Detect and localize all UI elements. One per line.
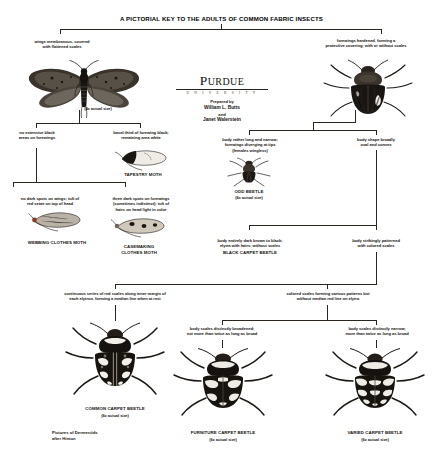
tier1-bracket-left-tick: [60, 29, 61, 34]
scale-note-odd-beetle: (6x actual size): [218, 195, 280, 200]
scale-note-clothes-moth: (4x actual size): [68, 106, 128, 111]
tier2-beetle-right-tick: [376, 130, 377, 135]
tier1-bracket-stem: [221, 24, 222, 29]
species-furniture-carpet-beetle: FURNITURE CARPET BEETLE: [170, 430, 276, 436]
tier2-moth-left-tick: [36, 123, 37, 128]
tier4-left-tick: [115, 284, 116, 289]
author-two: Janet Walerstein: [176, 117, 268, 124]
couplet-tier1-left: wings membranous, covered with flattened…: [12, 39, 112, 50]
tier3-beetle-bracket: [249, 225, 377, 226]
tier3-moth-stem: [36, 148, 37, 182]
beetle-trunk-horizontal: [313, 122, 356, 123]
pictorial-key-poster: A PICTORIAL KEY TO THE ADULTS OF COMMON …: [0, 0, 443, 465]
moth-trunk-stem: [79, 110, 80, 123]
couplet-tier2-moth-left: no extensive black areas on forewings: [4, 130, 70, 141]
moth-illustration-tapestry: [114, 145, 170, 173]
purdue-university-subtitle: U N I V E R S I T Y: [176, 91, 268, 95]
scale-note-varied-carpet-beetle: (6x actual size): [322, 437, 428, 442]
tier3-beetle-right-tick: [376, 225, 377, 230]
species-tapestry-moth: TAPESTRY MOTH: [108, 172, 178, 178]
species-casemaking-clothes-moth: CASEMAKING CLOTHES MOTH: [104, 244, 174, 256]
couplet-tier5-right: body scales distinctly narrow; more than…: [318, 326, 436, 337]
tier2-beetle-left-tick: [249, 130, 250, 135]
species-varied-carpet-beetle: VARIED CARPET BEETLE: [322, 430, 428, 436]
species-webbing-clothes-moth: WEBBING CLOTHES MOTH: [9, 240, 105, 246]
tier2-beetle-stem: [313, 122, 314, 130]
page-title: A PICTORIAL KEY TO THE ADULTS OF COMMON …: [0, 15, 443, 22]
couplet-tier2-moth-right: basal third of forewing black; remaining…: [100, 130, 182, 141]
couplet-tier4-left: continuous series of red scales along in…: [20, 291, 210, 302]
tier3-beetle-left-tick: [249, 225, 250, 230]
couplet-tier4-right: colored scales forming various patterns …: [246, 291, 410, 302]
species-black-carpet-beetle: BLACK CARPET BEETLE: [196, 250, 304, 256]
tier5-stem: [327, 305, 328, 320]
furniture-carpet-beetle-stem: [222, 340, 223, 348]
couplet-tier3-beetle-left: body entirely dark brown to black; elytr…: [196, 238, 304, 249]
varied-carpet-beetle-stem: [376, 340, 377, 348]
tier5-bracket: [222, 320, 377, 321]
couplet-tier3-moth-right: three dark spots on forewings (sometimes…: [96, 196, 186, 212]
moth-illustration-webbing: [28, 208, 84, 234]
couplet-tier1-right: forewings hardened, forming a protective…: [300, 38, 432, 49]
tier5-left-tick: [222, 320, 223, 325]
moth-illustration-casemaking: [110, 214, 168, 240]
couplet-tier2-beetle-right: body shape broadly oval and convex: [330, 137, 422, 148]
purdue-wordmark-initial: P: [200, 73, 208, 88]
tier5-right-tick: [376, 320, 377, 325]
purdue-branding-block: PURDUE U N I V E R S I T Y Prepared by W…: [176, 74, 268, 124]
tier3-moth-right-tick: [125, 182, 126, 187]
tier3-moth-left-tick: [13, 182, 14, 187]
scale-note-furniture-carpet-beetle: (6x actual size): [170, 437, 276, 442]
tier4-right-tick: [327, 284, 328, 289]
beetle-illustration-furniture-carpet: [170, 348, 276, 418]
tier3-moth-bracket: [13, 182, 126, 183]
common-carpet-beetle-stem: [115, 305, 116, 321]
tier1-bracket-horizontal: [60, 29, 382, 30]
illustration-credit-note: Pictures of Dermestids after Hinton: [52, 430, 162, 441]
tier4-bracket: [115, 284, 377, 285]
author-one: William L. Butts: [176, 105, 268, 112]
purdue-wordmark-body: URDUE: [208, 76, 244, 87]
beetle-illustration-common-carpet: [62, 322, 168, 398]
species-common-carpet-beetle: COMMON CARPET BEETLE: [62, 406, 168, 412]
purdue-divider: [176, 89, 268, 90]
tier2-beetle-bracket: [249, 130, 377, 131]
beetle-illustration-varied-carpet: [322, 348, 428, 418]
couplet-tier5-left: body scales distinctly broadened; not mo…: [162, 326, 282, 337]
beetle-illustration-black-carpet-adult: [318, 58, 418, 124]
tier3-beetle-stem: [376, 150, 377, 225]
couplet-tier2-beetle-left: body rather long and narrow; forewings d…: [206, 137, 294, 153]
purdue-wordmark: PURDUE: [176, 74, 268, 88]
scale-note-common-carpet-beetle: (6x actual size): [62, 413, 168, 418]
tier2-moth-right-tick: [140, 123, 141, 128]
couplet-tier3-beetle-right: body strikingly patterned with colored s…: [330, 238, 422, 249]
species-odd-beetle: ODD BEETLE: [218, 189, 280, 195]
beetle-trunk-stem: [355, 110, 356, 122]
tier2-moth-bracket: [36, 123, 141, 124]
couplet-tier3-moth-left: no dark spots on wings; tuft of red seta…: [2, 196, 98, 207]
beetle-illustration-odd: [224, 157, 274, 187]
tier1-bracket-right-tick: [381, 29, 382, 34]
tier4-stem: [376, 252, 377, 284]
